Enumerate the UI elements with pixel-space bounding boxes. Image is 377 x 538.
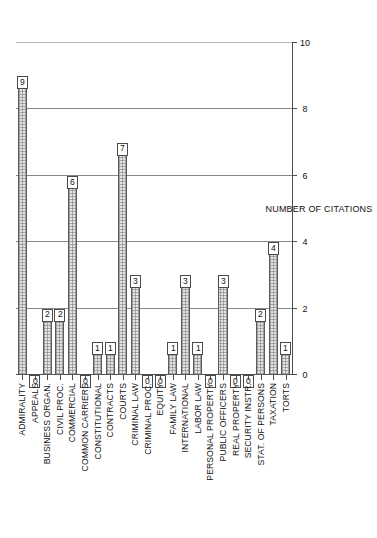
category-label: TORTS bbox=[281, 383, 291, 538]
category-tick bbox=[223, 375, 224, 380]
bar-value-label: 2 bbox=[54, 309, 65, 322]
gridline-10 bbox=[16, 42, 292, 43]
category-label: STAT. OF PERSONS bbox=[256, 383, 266, 538]
category-tick bbox=[135, 375, 136, 380]
category-label: BUSINESS ORGAN. bbox=[42, 383, 52, 538]
category-tick bbox=[123, 375, 124, 380]
bar bbox=[269, 242, 278, 375]
category-tick bbox=[98, 375, 99, 380]
category-label: SECURITY INSTR. bbox=[243, 383, 253, 538]
category-tick bbox=[85, 375, 86, 380]
bar bbox=[68, 176, 77, 375]
gridline-8 bbox=[16, 108, 292, 109]
value-axis-title: NUMBER OF CITATIONS bbox=[259, 204, 377, 214]
bar-value-label: 3 bbox=[180, 275, 191, 288]
value-tick-label-0: 0 bbox=[296, 370, 314, 380]
bar-value-label: 2 bbox=[42, 309, 53, 322]
bar-value-label: 1 bbox=[92, 342, 103, 355]
value-tick-label-8: 8 bbox=[296, 104, 314, 114]
category-label: TAXATION bbox=[268, 383, 278, 538]
category-label: COMMON CARRIERS bbox=[80, 383, 90, 538]
category-tick bbox=[185, 375, 186, 380]
value-tick-label-2: 2 bbox=[296, 304, 314, 314]
category-tick bbox=[210, 375, 211, 380]
category-tick bbox=[148, 375, 149, 380]
value-tick-label-4: 4 bbox=[296, 237, 314, 247]
gridline-4 bbox=[16, 241, 292, 242]
bar-value-label: 1 bbox=[105, 342, 116, 355]
category-tick bbox=[248, 375, 249, 380]
bar bbox=[118, 143, 127, 375]
category-tick bbox=[72, 375, 73, 380]
category-label: CRIMINAL LAW bbox=[130, 383, 140, 538]
category-label: CONSTITUTIONAL bbox=[93, 383, 103, 538]
category-label: EQUITY bbox=[155, 383, 165, 538]
category-tick bbox=[198, 375, 199, 380]
bar-value-label: 1 bbox=[280, 342, 291, 355]
value-tick-label-10: 10 bbox=[296, 38, 314, 48]
bar-value-label: 1 bbox=[167, 342, 178, 355]
category-label: PERSONAL PROPERTY bbox=[205, 383, 215, 538]
bar-value-label: 9 bbox=[17, 76, 28, 89]
category-tick bbox=[261, 375, 262, 380]
category-tick bbox=[47, 375, 48, 380]
category-label: PUBLIC OFFICERS bbox=[218, 383, 228, 538]
category-label: FAMILY LAW bbox=[168, 383, 178, 538]
gridline-6 bbox=[16, 175, 292, 176]
category-tick bbox=[160, 375, 161, 380]
category-label: COURTS bbox=[118, 383, 128, 538]
bar bbox=[218, 275, 227, 375]
bar-value-label: 1 bbox=[192, 342, 203, 355]
value-tick-label-6: 6 bbox=[296, 171, 314, 181]
bar-value-label: 7 bbox=[117, 143, 128, 156]
category-label: CIVIL PROC. bbox=[55, 383, 65, 538]
category-label: APPEALS bbox=[30, 383, 40, 538]
category-tick bbox=[286, 375, 287, 380]
category-label: LABOR LAW bbox=[193, 383, 203, 538]
category-label: REAL PROPERTY bbox=[231, 383, 241, 538]
bar-value-label: 6 bbox=[67, 176, 78, 189]
category-tick bbox=[236, 375, 237, 380]
category-tick bbox=[173, 375, 174, 380]
category-tick bbox=[22, 375, 23, 380]
bar-value-label: 4 bbox=[268, 242, 279, 255]
category-tick bbox=[35, 375, 36, 380]
bar bbox=[18, 76, 27, 375]
category-tick bbox=[273, 375, 274, 380]
category-tick bbox=[110, 375, 111, 380]
bar bbox=[131, 275, 140, 375]
bar-value-label: 3 bbox=[218, 275, 229, 288]
category-tick bbox=[60, 375, 61, 380]
category-label: CRIMINAL PROC. bbox=[143, 383, 153, 538]
category-label: CONTRACTS bbox=[105, 383, 115, 538]
bar-value-label: 2 bbox=[255, 309, 266, 322]
category-label: ADMIRALITY bbox=[17, 383, 27, 538]
category-label: INTERNATIONAL bbox=[180, 383, 190, 538]
bar-value-label: 3 bbox=[130, 275, 141, 288]
category-label: COMMERCIAL bbox=[67, 383, 77, 538]
bar bbox=[181, 275, 190, 375]
